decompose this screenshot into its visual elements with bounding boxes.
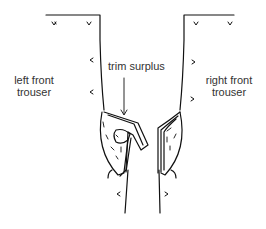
- right-label-line2: trouser: [200, 86, 258, 98]
- left-label-line1: left front: [9, 74, 59, 86]
- right-fly-piece: [158, 112, 182, 178]
- trouser-fly-diagram: [0, 0, 266, 229]
- trim-label-text: trim surplus: [108, 60, 165, 72]
- trim-surplus-arrow: [121, 78, 127, 115]
- left-front-trouser-label: left front trouser: [9, 74, 59, 98]
- right-front-trouser-label: right front trouser: [200, 74, 258, 98]
- left-fly-piece: [100, 112, 148, 178]
- trim-surplus-label: trim surplus: [108, 60, 165, 72]
- lower-seam-lines: [117, 170, 168, 213]
- right-label-line1: right front: [200, 74, 258, 86]
- left-label-line2: trouser: [9, 86, 59, 98]
